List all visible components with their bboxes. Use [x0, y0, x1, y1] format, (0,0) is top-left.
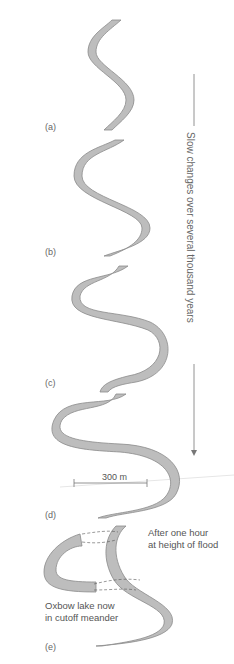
oxbow-annotation-line-1: Oxbow lake now: [45, 600, 118, 612]
time-axis-label: Slow changes over several thousand years: [185, 132, 196, 323]
river-c: [72, 266, 168, 392]
river-b: [74, 140, 150, 256]
flood-annotation-line-1: After one hour: [148, 527, 218, 539]
flood-annotation: After one hour at height of flood: [148, 527, 218, 551]
oxbow-annotation: Oxbow lake now in cutoff meander: [45, 600, 118, 624]
scale-bar-label: 300 m: [102, 472, 127, 482]
river-a: [88, 20, 134, 130]
panel-label-c: (c): [45, 378, 56, 388]
flood-annotation-line-2: at height of flood: [148, 539, 218, 551]
oxbow-annotation-line-2: in cutoff meander: [45, 612, 118, 624]
panel-label-e: (e): [45, 642, 56, 652]
panel-label-d: (d): [45, 510, 56, 520]
river-d: [52, 394, 180, 518]
meander-diagram: [0, 0, 234, 664]
panel-label-b: (b): [45, 247, 56, 257]
panel-label-a: (a): [45, 122, 56, 132]
